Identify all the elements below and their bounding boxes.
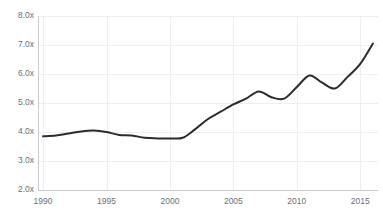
x-tick-label: 2010 <box>287 196 306 206</box>
x-tick-label: 2005 <box>224 196 243 206</box>
x-tick-label: 2015 <box>351 196 370 206</box>
x-tick-label: 1990 <box>34 196 53 206</box>
x-tick-label: 2000 <box>160 196 179 206</box>
x-axis: 199019952000200520102015 <box>0 0 383 220</box>
x-tick-label: 1995 <box>97 196 116 206</box>
chart-container: 2.0x3.0x4.0x5.0x6.0x7.0x8.0x 19901995200… <box>0 0 383 220</box>
